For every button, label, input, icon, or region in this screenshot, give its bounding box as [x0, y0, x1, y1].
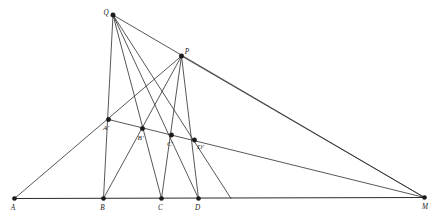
point-label-Ap: A': [102, 124, 109, 132]
point-label-D: D: [194, 204, 201, 212]
vertex-Cp: [169, 133, 173, 137]
vertex-B: [101, 196, 105, 200]
point-label-C: C: [158, 204, 163, 212]
point-label-Dp: D': [196, 143, 204, 151]
point-label-Bp: B': [138, 134, 144, 142]
point-label-M: M: [421, 203, 429, 211]
point-label-Cp: C': [167, 140, 174, 148]
line-Q-D: [113, 15, 199, 199]
line-P-M: [182, 56, 425, 198]
geometry-figure-canvas: ABCDMQPA'B'C'D': [0, 0, 437, 224]
line-P-D: [182, 56, 199, 199]
line-A-Ap-P: [15, 56, 182, 199]
vertex-Bp: [140, 126, 144, 130]
baseline-A-M: [15, 198, 425, 199]
line-Q-B: [104, 15, 114, 199]
vertex-C: [159, 196, 163, 200]
line-Q-C: [113, 15, 162, 199]
vertices-layer: [12, 13, 426, 201]
line-P-C: [162, 56, 182, 199]
point-label-B: B: [100, 204, 105, 212]
point-label-Q: Q: [103, 9, 109, 17]
line-Ap-Dp-M: [109, 120, 425, 198]
geometry-figure-svg: ABCDMQPA'B'C'D': [0, 0, 437, 224]
lines-layer: [15, 15, 425, 199]
vertex-A: [12, 196, 16, 200]
labels-layer: ABCDMQPA'B'C'D': [10, 9, 429, 212]
line-Q-Dp-base: [113, 15, 231, 199]
vertex-Q: [111, 13, 116, 18]
vertex-Dp: [192, 138, 196, 142]
point-label-P: P: [184, 48, 190, 56]
vertex-D: [196, 196, 200, 200]
vertex-P: [179, 54, 184, 59]
vertex-Ap: [106, 117, 110, 121]
point-label-A: A: [10, 204, 16, 212]
vertex-M: [422, 195, 426, 199]
